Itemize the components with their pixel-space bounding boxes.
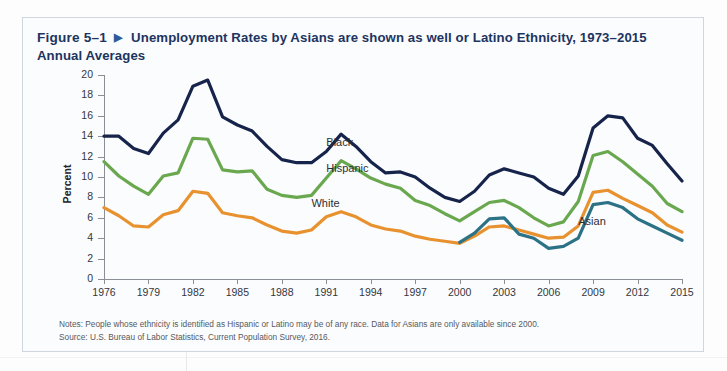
series-label-white: White bbox=[311, 197, 339, 209]
series-line-hispanic bbox=[104, 138, 682, 226]
figure-number: Figure 5–1 bbox=[37, 30, 107, 45]
figure-page: Figure 5–1▶Unemployment Rates by Asians … bbox=[0, 0, 727, 371]
source-line: Source: U.S. Bureau of Labor Statistics,… bbox=[59, 331, 689, 344]
page-title: Unemployment Rates by Asians are shown a… bbox=[37, 30, 647, 63]
chart-plot-area: Percent 02468101214161820197619791982198… bbox=[69, 72, 689, 314]
figure-notes: Notes: People whose ethnicity is identif… bbox=[59, 318, 689, 343]
series-label-black: Black bbox=[326, 136, 353, 148]
page-rule-horizontal bbox=[0, 357, 727, 358]
figure-container: Figure 5–1▶Unemployment Rates by Asians … bbox=[22, 17, 704, 352]
notes-line: Notes: People whose ethnicity is identif… bbox=[59, 318, 689, 331]
series-label-asian: Asian bbox=[578, 215, 606, 227]
page-rule-vertical bbox=[186, 352, 187, 371]
figure-title-block: Figure 5–1▶Unemployment Rates by Asians … bbox=[37, 29, 687, 64]
triangle-right-icon: ▶ bbox=[114, 29, 122, 46]
series-label-hispanic: Hispanic bbox=[326, 162, 368, 174]
chart-series-svg bbox=[69, 72, 689, 314]
